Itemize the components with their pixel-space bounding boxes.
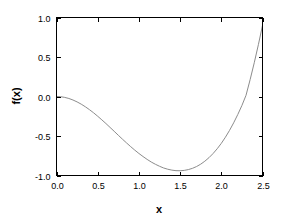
x-axis-title: x	[156, 203, 163, 215]
x-tick-label: 0.5	[92, 181, 105, 191]
plot-background	[57, 18, 263, 176]
y-tick-label: 0.0	[38, 93, 51, 103]
chart-figure: 0.00.51.01.52.02.5 -1.0-0.50.00.51.0 x f…	[0, 0, 281, 220]
x-tick-label: 1.0	[133, 181, 146, 191]
x-tick-label: 2.0	[215, 181, 228, 191]
x-tick-labels: 0.00.51.01.52.02.5	[51, 181, 270, 191]
y-axis-title: f(x)	[10, 87, 22, 104]
y-tick-label: -0.5	[35, 132, 51, 142]
y-tick-label: -1.0	[35, 172, 51, 182]
x-tick-label: 0.0	[51, 181, 64, 191]
y-tick-label: 1.0	[38, 14, 51, 24]
x-tick-label: 2.5	[257, 181, 270, 191]
y-tick-label: 0.5	[38, 53, 51, 63]
y-tick-labels: -1.0-0.50.00.51.0	[35, 14, 51, 182]
x-tick-label: 1.5	[174, 181, 187, 191]
line-chart: 0.00.51.01.52.02.5 -1.0-0.50.00.51.0 x f…	[0, 0, 281, 220]
